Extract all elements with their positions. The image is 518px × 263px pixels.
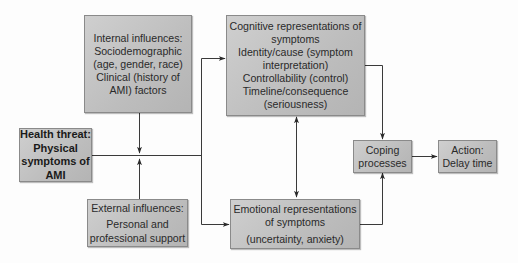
node-text: of symptoms (265, 216, 325, 229)
action-delay-time-box: Action: Delay time (438, 140, 497, 173)
node-text: Sociodemographic (94, 45, 182, 58)
node-text: Internal influences: (94, 32, 183, 45)
emotional-representations-box: Emotional representations of symptoms (u… (230, 199, 360, 249)
node-text: External influences: (91, 201, 183, 215)
node-text: Emotional representations (233, 203, 356, 216)
node-text: Identity/cause (symptom (238, 46, 353, 59)
node-text: processes (358, 157, 406, 170)
cognitive-representations-box: Cognitive representations of symptoms Id… (226, 15, 365, 116)
internal-influences-box: Internal influences: Sociodemographic (a… (84, 15, 192, 113)
node-text: Timeline/consequence (243, 85, 349, 98)
node-text: Clinical (history of (96, 71, 180, 84)
external-influences-box: External influences: Personal and profes… (87, 199, 188, 247)
node-text: professional support (90, 231, 185, 245)
health-threat-box: Health threat: Physical symptoms of AMI (19, 128, 92, 182)
node-text: interpretation) (263, 59, 328, 72)
node-text: Cognitive representations of (230, 20, 362, 33)
node-text: symptoms of (21, 155, 89, 169)
node-text: Coping (366, 144, 400, 157)
node-text: Personal and (106, 217, 168, 231)
diagram-canvas: Internal influences: Sociodemographic (a… (0, 0, 518, 263)
node-text: Health threat: (20, 128, 91, 142)
node-text: Action: (451, 144, 483, 157)
node-text: Delay time (442, 157, 492, 170)
coping-processes-box: Coping processes (353, 140, 412, 173)
node-text: Physical (33, 142, 78, 156)
node-text: AMI) factors (109, 84, 166, 97)
node-text: symptoms (271, 33, 319, 46)
node-text: (uncertainty, anxiety) (246, 233, 344, 246)
node-text: Controllability (control) (243, 72, 348, 85)
node-text: (age, gender, race) (93, 58, 183, 71)
node-text: AMI (45, 169, 65, 183)
node-text: (seriousness) (264, 98, 328, 111)
